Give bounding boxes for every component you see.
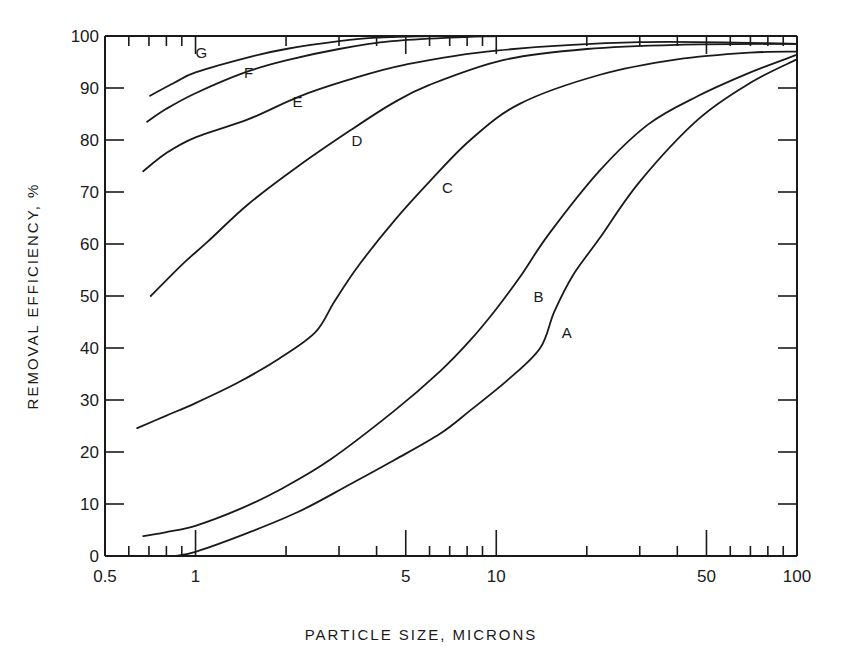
curve-label-e: E [292, 93, 302, 110]
x-axis-title: PARTICLE SIZE, MICRONS [305, 626, 538, 643]
y-tick-label: 10 [80, 495, 99, 514]
y-tick-label: 20 [80, 443, 99, 462]
curve-label-a: A [562, 324, 572, 341]
curve-b [143, 55, 796, 536]
y-tick-label: 100 [71, 27, 99, 46]
y-tick-label: 50 [80, 287, 99, 306]
curve-label-g: G [196, 44, 208, 61]
tick-labels: 01020304050607080901000.5151050100 [71, 27, 812, 586]
x-tick-label: 10 [487, 567, 506, 586]
x-tick-label: 5 [401, 567, 410, 586]
y-tick-label: 90 [80, 79, 99, 98]
x-tick-label: 0.5 [93, 567, 117, 586]
x-tick-label: 50 [697, 567, 716, 586]
y-tick-label: 70 [80, 183, 99, 202]
plot-frame [105, 36, 797, 556]
y-tick-label: 80 [80, 131, 99, 150]
y-tick-label: 40 [80, 339, 99, 358]
x-tick-label: 100 [783, 567, 811, 586]
curve-g [150, 36, 429, 96]
axis-ticks [105, 36, 797, 556]
efficiency-curves [137, 36, 797, 556]
y-tick-label: 60 [80, 235, 99, 254]
y-tick-label: 30 [80, 391, 99, 410]
curve-c [137, 52, 797, 429]
curve-label-b: B [534, 288, 544, 305]
y-axis-title: REMOVAL EFFICIENCY, % [24, 183, 41, 410]
curve-e [143, 42, 797, 171]
x-tick-label: 1 [191, 567, 200, 586]
curve-label-c: C [442, 179, 453, 196]
curve-d [151, 44, 797, 296]
y-tick-label: 0 [90, 547, 99, 566]
curve-label-d: D [351, 132, 362, 149]
curve-label-f: F [244, 64, 253, 81]
curve-labels: ABCDEFG [196, 44, 572, 342]
curve-a [174, 60, 795, 556]
removal-efficiency-chart: 01020304050607080901000.5151050100 ABCDE… [0, 0, 843, 668]
